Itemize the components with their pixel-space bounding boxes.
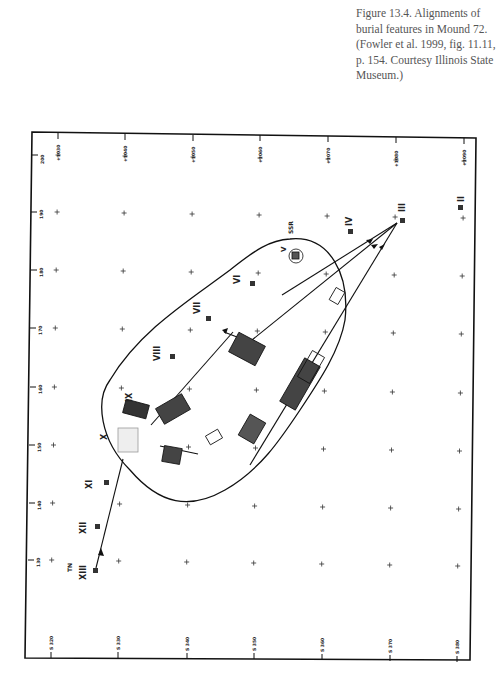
svg-text:S 330: S 330 [116, 636, 121, 650]
feature-markers [93, 205, 463, 573]
svg-text:180: 180 [39, 268, 44, 277]
svg-text:IV: IV [345, 216, 354, 226]
svg-text:190: 190 [39, 210, 44, 219]
svg-text:IX: IX [125, 392, 134, 402]
svg-text:VII: VII [193, 302, 202, 314]
svg-text:II: II [457, 196, 466, 202]
left-axis-labels: 200 190 180 170 160 150 140 130 [36, 155, 45, 567]
svg-text:S 360: S 360 [320, 638, 325, 652]
svg-text:+1090: +1090 [462, 150, 467, 166]
svg-text:200: 200 [40, 155, 45, 164]
svg-text:+1060: +1060 [258, 147, 263, 163]
feature-labels: III II IV SSR V VI VII VIII IX X XI XII … [66, 196, 466, 580]
svg-text:III: III [398, 203, 407, 212]
svg-text:+1030: +1030 [56, 145, 61, 161]
svg-text:150: 150 [37, 443, 42, 452]
svg-text:S 340: S 340 [185, 637, 190, 651]
svg-text:+1040: +1040 [123, 146, 128, 162]
svg-text:130: 130 [36, 558, 41, 567]
bottom-axis-labels: S 320 S 330 S 340 S 350 S 360 S 370 S 38… [49, 636, 460, 654]
svg-text:XI: XI [85, 480, 94, 489]
svg-text:TN: TN [66, 563, 73, 572]
top-axis-labels: +1030 +1040 +1050 +1060 +1070 +1080 +109… [56, 145, 467, 167]
svg-text:V: V [280, 246, 288, 252]
alignment-lines [96, 223, 397, 568]
map-frame [25, 132, 476, 660]
svg-text:+1050: +1050 [191, 147, 196, 163]
svg-text:X: X [100, 433, 109, 440]
svg-text:170: 170 [38, 326, 43, 335]
svg-text:S 370: S 370 [388, 639, 393, 653]
svg-text:+1070: +1070 [326, 148, 331, 164]
svg-text:140: 140 [37, 501, 42, 510]
svg-text:SSR: SSR [287, 221, 294, 234]
svg-text:S 380: S 380 [455, 640, 460, 654]
svg-text:S 320: S 320 [49, 636, 54, 650]
svg-text:VI: VI [233, 275, 242, 284]
mound-72-burial-map: 200 190 180 170 160 150 140 130 +1030 +1… [0, 0, 502, 698]
svg-text:XIII: XIII [79, 565, 88, 580]
svg-text:S 350: S 350 [252, 637, 257, 651]
svg-text:XII: XII [79, 522, 88, 534]
svg-text:160: 160 [38, 385, 43, 394]
svg-text:VIII: VIII [153, 346, 162, 361]
svg-text:+1080: +1080 [394, 151, 399, 167]
